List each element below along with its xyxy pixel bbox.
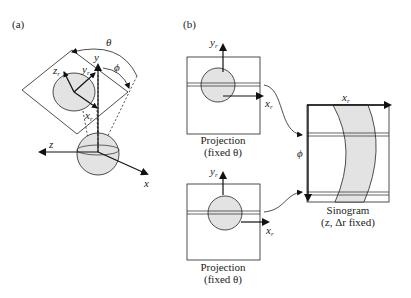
panel-b-label: (b) (183, 18, 196, 31)
panel-a-label: (a) (12, 18, 25, 31)
caption-line1: Sinogram (327, 204, 370, 216)
sinogram: xr ϕ Sinogram (z, Δr fixed) (297, 91, 390, 229)
projection-bottom: yr xr Projection (fixed θ) (187, 165, 274, 286)
caption-line2: (fixed θ) (204, 146, 242, 159)
xr-label: xr (264, 97, 273, 111)
panel-b: (b) yr xr Projection (fixed θ) yr xr Pro… (183, 18, 390, 286)
phi-label: ϕ (297, 147, 303, 159)
figure: (a) y z x zr yr xr θ ϕ (0, 0, 411, 298)
projection-object (208, 196, 242, 230)
caption-line2: (z, Δr fixed) (321, 216, 375, 229)
theta-label: θ (106, 36, 112, 48)
caption-line1: Projection (200, 134, 246, 146)
projection-top: yr xr Projection (fixed θ) (187, 36, 273, 159)
xr-label: xr (265, 224, 274, 238)
x-axis-label: x (143, 177, 149, 189)
caption-line2: (fixed θ) (204, 273, 242, 286)
phi-label: ϕ (114, 61, 120, 73)
yr-label: yr (209, 36, 218, 50)
projection-object (201, 68, 235, 102)
yr-label: yr (209, 165, 218, 179)
connector-bottom (264, 192, 302, 212)
caption-line1: Projection (200, 261, 246, 273)
y-axis-label: y (93, 51, 99, 63)
z-axis-label: z (48, 138, 54, 150)
xr-label: xr (341, 91, 350, 105)
panel-a: (a) y z x zr yr xr θ ϕ (12, 18, 149, 189)
